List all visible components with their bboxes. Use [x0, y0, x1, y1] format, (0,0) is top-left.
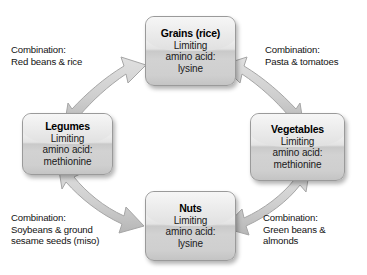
node-nuts[interactable]: Nuts Limiting amino acid: lysine: [145, 191, 236, 261]
node-vegetables-line-1: Limiting: [271, 136, 324, 148]
diagram-canvas: Grains (rice) Limiting amino acid: lysin…: [0, 0, 367, 275]
node-grains[interactable]: Grains (rice) Limiting amino acid: lysin…: [145, 16, 236, 86]
node-nuts-line-1: Limiting: [165, 215, 215, 227]
node-vegetables-line-3: methionine: [271, 159, 324, 171]
node-legumes-text: Legumes Limiting amino acid: methionine: [42, 121, 92, 167]
caption-line: Soybeans & ground: [11, 224, 99, 236]
caption-line: Combination:: [265, 44, 338, 56]
caption-line: Combination:: [263, 212, 326, 224]
caption-nuts-vegetables: Combination: Green beans & almonds: [263, 212, 326, 247]
node-legumes-line-2: amino acid:: [42, 144, 92, 156]
caption-line: sesame seeds (miso): [11, 235, 99, 247]
caption-legumes-nuts: Combination: Soybeans & ground sesame se…: [11, 212, 99, 247]
node-vegetables-line-2: amino acid:: [271, 147, 324, 159]
node-nuts-line-3: lysine: [165, 238, 215, 250]
node-vegetables-title: Vegetables: [271, 124, 324, 136]
node-legumes-line-3: methionine: [42, 156, 92, 168]
node-nuts-title: Nuts: [165, 203, 215, 215]
node-grains-text: Grains (rice) Limiting amino acid: lysin…: [161, 28, 220, 74]
node-nuts-line-2: amino acid:: [165, 226, 215, 238]
node-vegetables-text: Vegetables Limiting amino acid: methioni…: [271, 124, 324, 170]
node-nuts-text: Nuts Limiting amino acid: lysine: [165, 203, 215, 249]
node-legumes-line-1: Limiting: [42, 133, 92, 145]
node-legumes[interactable]: Legumes Limiting amino acid: methionine: [22, 113, 113, 175]
caption-line: Green beans &: [263, 224, 326, 236]
node-vegetables[interactable]: Vegetables Limiting amino acid: methioni…: [250, 113, 345, 181]
node-legumes-title: Legumes: [42, 121, 92, 133]
caption-line: Pasta & tomatoes: [265, 56, 338, 68]
node-grains-line-1: Limiting: [161, 40, 220, 52]
caption-line: almonds: [263, 235, 326, 247]
node-grains-line-2: amino acid:: [161, 51, 220, 63]
caption-legumes-grains: Combination: Red beans & rice: [11, 44, 82, 67]
node-grains-line-3: lysine: [161, 63, 220, 75]
caption-line: Red beans & rice: [11, 56, 82, 68]
caption-grains-vegetables: Combination: Pasta & tomatoes: [265, 44, 338, 67]
caption-line: Combination:: [11, 44, 82, 56]
node-grains-title: Grains (rice): [161, 28, 220, 40]
caption-line: Combination:: [11, 212, 99, 224]
